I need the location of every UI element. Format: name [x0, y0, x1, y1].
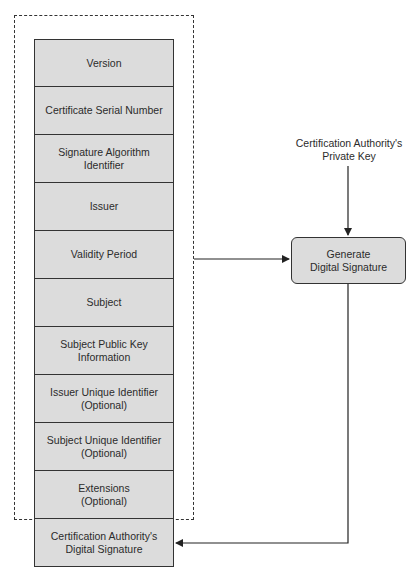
field-version: Version: [34, 39, 174, 87]
field-label: Signature Algorithm: [58, 146, 150, 159]
process-label-line2: Digital Signature: [310, 261, 387, 274]
process-label-line1: Generate: [327, 248, 371, 261]
field-label: Version: [86, 57, 121, 70]
field-label: Certification Authority's: [51, 530, 157, 543]
field-label: Subject: [86, 296, 121, 309]
field-issuer-unique-id: Issuer Unique Identifier (Optional): [34, 375, 174, 423]
key-label-line1: Certification Authority's: [282, 137, 416, 150]
field-validity-period: Validity Period: [34, 231, 174, 279]
ca-private-key-label: Certification Authority's Private Key: [282, 137, 416, 163]
field-subject-unique-id: Subject Unique Identifier (Optional): [34, 423, 174, 471]
field-extensions: Extensions (Optional): [34, 471, 174, 519]
field-signature-algorithm: Signature Algorithm Identifier: [34, 135, 174, 183]
field-serial-number: Certificate Serial Number: [34, 87, 174, 135]
field-label-line2: (Optional): [47, 447, 161, 460]
field-label-line2: (Optional): [78, 495, 129, 508]
field-issuer: Issuer: [34, 183, 174, 231]
key-label-line2: Private Key: [282, 150, 416, 163]
field-label: Extensions: [78, 482, 129, 495]
field-label: Subject Public Key: [60, 338, 148, 351]
field-label-line2: Information: [60, 351, 148, 364]
field-subject-public-key: Subject Public Key Information: [34, 327, 174, 375]
certificate-field-stack: Version Certificate Serial Number Signat…: [34, 39, 174, 567]
field-label: Subject Unique Identifier: [47, 434, 161, 447]
field-label: Issuer: [90, 200, 119, 213]
field-label: Certificate Serial Number: [45, 104, 162, 117]
field-ca-digital-signature: Certification Authority's Digital Signat…: [34, 519, 174, 567]
arrow-generate-to-signature: [176, 284, 348, 543]
generate-signature-box: Generate Digital Signature: [291, 237, 406, 284]
field-label-line2: Identifier: [58, 159, 150, 172]
field-subject: Subject: [34, 279, 174, 327]
field-label-line2: (Optional): [50, 399, 158, 412]
field-label-line2: Digital Signature: [51, 543, 157, 556]
field-label: Validity Period: [71, 248, 137, 261]
field-label: Issuer Unique Identifier: [50, 386, 158, 399]
